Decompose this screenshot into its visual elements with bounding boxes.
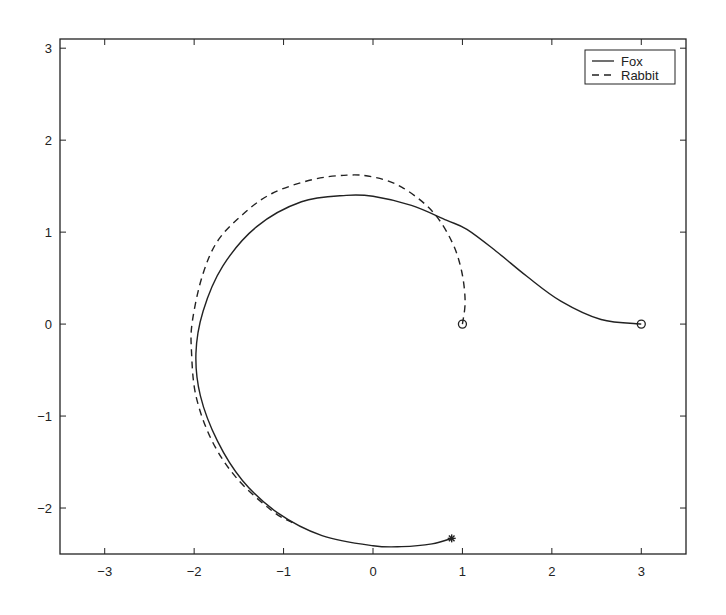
legend: Fox Rabbit bbox=[585, 50, 675, 84]
x-tick-label: −2 bbox=[187, 564, 202, 579]
fox-end-asterisk-icon bbox=[448, 534, 456, 542]
figure-background bbox=[0, 0, 726, 615]
legend-fox-label: Fox bbox=[621, 54, 643, 69]
y-tick-label: −1 bbox=[37, 409, 52, 424]
x-tick-label: −1 bbox=[276, 564, 291, 579]
x-tick-label: −3 bbox=[97, 564, 112, 579]
y-tick-label: 2 bbox=[45, 133, 52, 148]
y-tick-label: 1 bbox=[45, 225, 52, 240]
x-tick-label: 0 bbox=[369, 564, 376, 579]
legend-rabbit-label: Rabbit bbox=[621, 68, 659, 83]
y-tick-label: 0 bbox=[45, 317, 52, 332]
x-tick-label: 3 bbox=[638, 564, 645, 579]
x-tick-label: 2 bbox=[548, 564, 555, 579]
x-tick-label: 1 bbox=[459, 564, 466, 579]
y-tick-label: 3 bbox=[45, 41, 52, 56]
chart-canvas: −3−2−10123−2−10123 Fox Rabbit bbox=[0, 0, 726, 615]
y-tick-label: −2 bbox=[37, 501, 52, 516]
